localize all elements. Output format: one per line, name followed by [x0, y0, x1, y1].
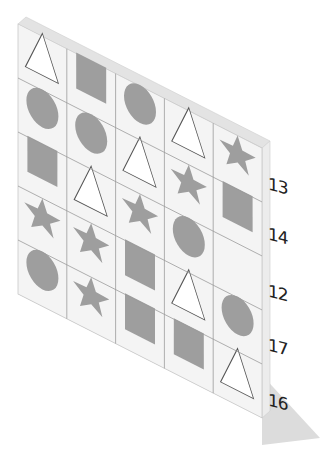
puzzle-board: 1314121716 — [0, 0, 322, 456]
